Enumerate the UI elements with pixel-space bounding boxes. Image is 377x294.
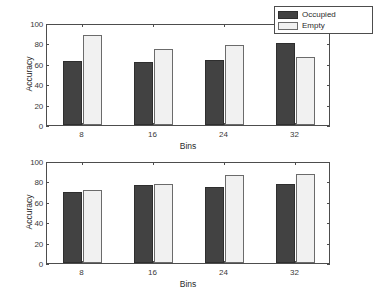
plot-area-top [47, 25, 329, 125]
legend-label-empty: Empty [302, 21, 325, 30]
y-axis-label-top: Accuracy [24, 39, 34, 109]
bar-occupied-16 [134, 185, 153, 263]
x-tick-label: 24 [219, 130, 228, 139]
x-tick-mark-top [82, 24, 83, 27]
y-tick-mark [46, 24, 49, 25]
bar-empty-32 [296, 174, 315, 263]
bar-empty-8 [83, 35, 102, 125]
y-tick-mark-right [327, 203, 330, 204]
bar-empty-16 [154, 49, 173, 126]
y-tick-mark-right [327, 162, 330, 163]
plot-frame-top [46, 24, 330, 126]
y-tick-label: 60 [35, 198, 44, 207]
y-tick-mark [46, 264, 49, 265]
y-tick-mark-right [327, 223, 330, 224]
y-tick-label: 0 [39, 122, 43, 131]
figure-bar-charts: 020406080100 8162432 Accuracy Bins Occup… [0, 0, 377, 294]
x-tick-label: 16 [148, 130, 157, 139]
x-tick-mark [224, 123, 225, 126]
y-tick-mark [46, 85, 49, 86]
y-tick-mark-right [327, 264, 330, 265]
chart-panel-bottom: 020406080100 8162432 Accuracy Bins [0, 152, 377, 294]
plot-frame-bottom [46, 162, 330, 264]
bar-empty-24 [225, 175, 244, 263]
bar-occupied-32 [276, 184, 295, 263]
x-tick-mark-top [82, 162, 83, 165]
y-tick-label: 80 [35, 178, 44, 187]
legend-item-empty: Empty [278, 20, 369, 31]
y-tick-mark [46, 126, 49, 127]
chart-panel-top: 020406080100 8162432 Accuracy Bins Occup… [0, 0, 377, 152]
legend: Occupied Empty [274, 6, 373, 34]
y-tick-mark-right [327, 85, 330, 86]
x-tick-mark [82, 261, 83, 264]
y-axis-label-bottom: Accuracy [24, 177, 34, 247]
y-tick-label: 40 [35, 81, 44, 90]
x-tick-mark-top [224, 24, 225, 27]
plot-area-bottom [47, 163, 329, 263]
x-tick-label: 16 [148, 268, 157, 277]
y-tick-label: 60 [35, 60, 44, 69]
x-tick-mark-top [153, 162, 154, 165]
y-tick-label: 20 [35, 101, 44, 110]
bar-empty-16 [154, 184, 173, 263]
x-tick-mark-top [153, 24, 154, 27]
y-tick-mark-right [327, 182, 330, 183]
y-tick-label: 20 [35, 239, 44, 248]
y-tick-mark-right [327, 244, 330, 245]
bar-occupied-16 [134, 62, 153, 125]
y-tick-mark [46, 65, 49, 66]
x-tick-mark-top [295, 162, 296, 165]
bar-empty-8 [83, 190, 102, 263]
y-tick-label: 100 [30, 20, 43, 29]
legend-item-occupied: Occupied [278, 9, 369, 20]
legend-swatch-occupied-icon [278, 11, 298, 19]
bar-empty-32 [296, 57, 315, 125]
y-tick-label: 40 [35, 219, 44, 228]
y-tick-mark [46, 244, 49, 245]
bar-occupied-8 [63, 192, 82, 263]
y-tick-label: 100 [30, 158, 43, 167]
bar-empty-24 [225, 45, 244, 125]
y-tick-mark [46, 203, 49, 204]
y-tick-mark-right [327, 44, 330, 45]
y-tick-mark-right [327, 65, 330, 66]
x-tick-mark-top [224, 162, 225, 165]
x-tick-mark [224, 261, 225, 264]
x-tick-label: 32 [290, 268, 299, 277]
y-tick-mark [46, 106, 49, 107]
y-tick-mark [46, 182, 49, 183]
bar-occupied-24 [205, 187, 224, 264]
x-tick-label: 32 [290, 130, 299, 139]
bar-occupied-24 [205, 60, 224, 125]
y-tick-mark [46, 162, 49, 163]
x-tick-label: 8 [79, 130, 83, 139]
x-tick-label: 24 [219, 268, 228, 277]
x-tick-mark [153, 123, 154, 126]
legend-label-occupied: Occupied [302, 10, 336, 19]
x-tick-mark [82, 123, 83, 126]
legend-swatch-empty-icon [278, 22, 298, 30]
x-axis-label-top: Bins [46, 141, 330, 151]
bar-occupied-8 [63, 61, 82, 125]
y-tick-mark [46, 223, 49, 224]
x-axis-label-bottom: Bins [46, 279, 330, 289]
x-tick-mark [295, 261, 296, 264]
y-tick-label: 80 [35, 40, 44, 49]
x-tick-mark [153, 261, 154, 264]
y-tick-mark-right [327, 126, 330, 127]
y-tick-mark-right [327, 106, 330, 107]
bar-occupied-32 [276, 43, 295, 125]
x-tick-label: 8 [79, 268, 83, 277]
y-tick-mark [46, 44, 49, 45]
y-tick-label: 0 [39, 260, 43, 269]
x-tick-mark [295, 123, 296, 126]
